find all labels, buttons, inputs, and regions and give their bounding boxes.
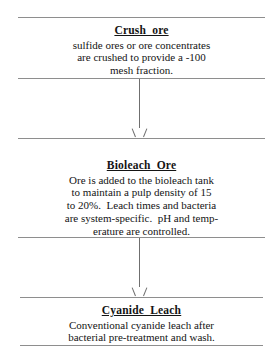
stage-cyanide-leach-title: Cyanide Leach: [102, 304, 181, 317]
stage-bioleach-ore-body-line-4: are system-specific. pH and temp-: [18, 212, 265, 225]
connector-bioleach-to-cyanide-arrow-icon: [134, 238, 145, 296]
stage-bioleach-ore-body: Ore is added to the bioleach tank to mai…: [18, 174, 265, 238]
stage-bioleach-ore: Bioleach Ore Ore is added to the bioleac…: [18, 155, 265, 237]
stage-crush-ore: Crush ore sulfide ores or ore concentrat…: [18, 20, 265, 77]
stage-cyanide-leach-top-rule: [20, 297, 263, 298]
stage-bioleach-ore-body-line-3: to 20%. Leach times and bacteria: [18, 199, 265, 212]
stage-bioleach-ore-body-line-2: to maintain a pulp density of 15: [18, 186, 265, 199]
stage-crush-ore-title: Crush ore: [114, 24, 168, 37]
stage-bioleach-ore-body-line-1: Ore is added to the bioleach tank: [18, 174, 265, 187]
stage-cyanide-leach: Cyanide Leach Conventional cyanide leach…: [20, 300, 263, 344]
stage-cyanide-leach-body-line-2: bacterial pre-treatment and wash.: [20, 331, 263, 344]
stage-cyanide-leach-bottom-rule: [20, 345, 263, 346]
stage-crush-ore-body-line-1: sulfide ores or ore concentrates: [18, 39, 265, 52]
stage-crush-ore-body-line-3: mesh fraction.: [18, 64, 265, 77]
stage-cyanide-leach-body-line-1: Conventional cyanide leach after: [20, 319, 263, 332]
stage-crush-ore-body: sulfide ores or ore concentrates are cru…: [18, 39, 265, 77]
stage-crush-ore-body-line-2: are crushed to provide a -100: [18, 51, 265, 64]
connector-crush-to-bioleach-arrow-icon: [134, 79, 145, 137]
stage-crush-ore-top-rule: [18, 17, 265, 18]
stage-bioleach-ore-title: Bioleach Ore: [107, 159, 176, 172]
stage-bioleach-ore-body-line-5: erature are controlled.: [18, 225, 265, 238]
stage-bioleach-ore-top-rule: [18, 138, 265, 139]
flowchart-canvas: Crush ore sulfide ores or ore concentrat…: [0, 0, 279, 359]
stage-cyanide-leach-body: Conventional cyanide leach after bacteri…: [20, 319, 263, 345]
